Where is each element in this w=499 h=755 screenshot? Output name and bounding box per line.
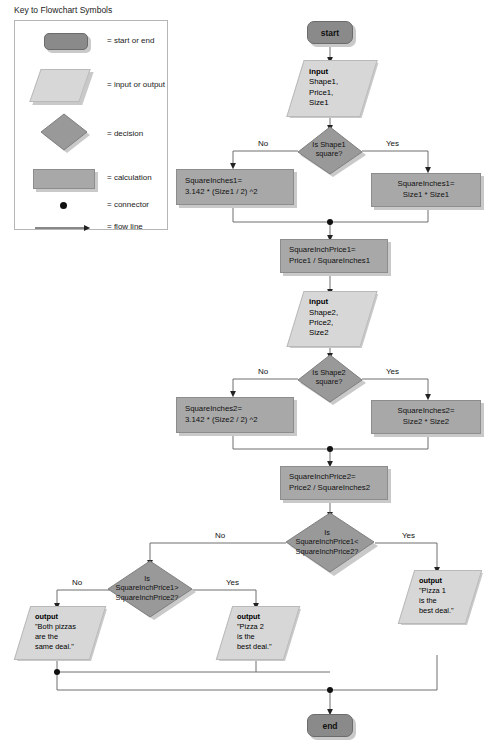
output-pizza2-line-2: is the <box>237 632 290 642</box>
input-2-header: input <box>309 297 367 307</box>
output-pizza2-header: output <box>237 612 290 622</box>
price2-line-1: SquareInchPrice2= <box>289 472 356 483</box>
price1-line-2: Price1 / SquareInches1 <box>289 256 370 267</box>
node-output-pizza2[interactable]: output "Pizza 2 is the best deal." <box>224 606 290 658</box>
node-calc-squareinchprice1[interactable]: SquareInchPrice1= Price1 / SquareInches1 <box>280 239 388 273</box>
dot-symbol <box>25 195 103 217</box>
legend-row-connector: = connector <box>15 195 167 217</box>
input-2-text: input Shape2, Price2, Size2 <box>295 291 367 345</box>
node-end[interactable]: end <box>307 714 353 737</box>
calc2-yes-line-1: SquareInches2= <box>397 406 454 417</box>
calc1-yes-line-2: Size1 * Size1 <box>403 190 449 201</box>
output-pizza2-text: output "Pizza 2 is the best deal." <box>224 606 290 658</box>
output-pizza2-line-3: best deal." <box>237 642 290 652</box>
decision3-line-1: Is <box>324 528 330 537</box>
rectangle-symbol <box>25 161 103 195</box>
output-same-line-3: same deal." <box>35 642 96 652</box>
output-same-header: output <box>35 612 96 622</box>
node-decision-shape2-square[interactable]: Is Shape2 square? <box>294 354 368 406</box>
decision4-line-1: Is <box>144 574 150 583</box>
decision-price-lt-text: Is SquareInchPrice1< SquareInchPrice2? <box>278 509 376 575</box>
legend-row-io: = input or output <box>15 63 167 107</box>
node-decision-shape1-square[interactable]: Is Shape1 square? <box>294 126 368 178</box>
legend-box: = start or end = input or output = decis… <box>14 20 168 230</box>
input-1-line-1: Shape1, <box>309 77 367 87</box>
node-calc-squareinches2-square[interactable]: SquareInches2= Size2 * Size2 <box>371 400 481 434</box>
output-pizza1-line-2: is the <box>419 596 472 606</box>
legend-row-terminator: = start or end <box>15 27 167 61</box>
decision3-line-3: SquareInchPrice2? <box>296 547 359 556</box>
node-calc-squareinches2-circle[interactable]: SquareInches2= 3.142 * (Size2 / 2) ^2 <box>176 397 294 433</box>
output-pizza1-line-3: best deal." <box>419 606 472 616</box>
calc2-yes-line-2: Size2 * Size2 <box>403 417 449 428</box>
node-calc-squareinches1-square[interactable]: SquareInches1= Size1 * Size1 <box>371 173 481 207</box>
price1-line-1: SquareInchPrice1= <box>289 245 356 256</box>
flowchart-canvas: Key to Flowchart Symbols = start or end … <box>0 0 499 755</box>
edge-label-d2-no: No <box>258 367 268 376</box>
node-input-1[interactable]: input Shape1, Price1, Size1 <box>295 60 367 115</box>
legend-label-decision: = decision <box>107 129 143 138</box>
node-calc-squareinches1-circle[interactable]: SquareInches1= 3.142 * (Size1 / 2) ^2 <box>176 169 294 205</box>
node-calc-squareinchprice2[interactable]: SquareInchPrice2= Price2 / SquareInches2 <box>280 466 388 500</box>
legend-label-calculation: = calculation <box>107 173 152 182</box>
output-pizza1-text: output "Pizza 1 is the best deal." <box>406 570 472 622</box>
legend-label-terminator: = start or end <box>107 36 154 45</box>
calc1-yes-line-1: SquareInches1= <box>397 179 454 190</box>
edge-label-d2-yes: Yes <box>386 367 399 376</box>
node-start[interactable]: start <box>307 21 353 44</box>
input-2-line-2: Price2, <box>309 318 367 328</box>
calc1-no-line-2: 3.142 * (Size1 / 2) ^2 <box>185 187 258 198</box>
node-output-pizza1[interactable]: output "Pizza 1 is the best deal." <box>406 570 472 622</box>
decision-shape1-line-2: square? <box>316 149 343 158</box>
calc1-no-line-1: SquareInches1= <box>185 176 242 187</box>
legend-row-flowline: = flow line <box>15 217 167 239</box>
legend-title: Key to Flowchart Symbols <box>14 5 112 15</box>
diamond-symbol <box>25 111 103 157</box>
decision-price-gt-text: Is SquareInchPrice1> SquareInchPrice2? <box>100 557 194 619</box>
node-input-2[interactable]: input Shape2, Price2, Size2 <box>295 291 367 345</box>
input-2-line-1: Shape2, <box>309 308 367 318</box>
edge-label-d1-yes: Yes <box>386 139 399 148</box>
decision-shape1-line-1: Is Shape1 <box>312 140 345 149</box>
calc2-no-line-1: SquareInches2= <box>185 404 242 415</box>
decision-shape1-text: Is Shape1 square? <box>292 123 366 175</box>
legend-row-decision: = decision <box>15 111 167 157</box>
output-same-line-2: are the <box>35 632 96 642</box>
output-pizza2-line-1: "Pizza 2 <box>237 622 290 632</box>
terminator-symbol <box>25 27 103 61</box>
parallelogram-symbol <box>25 63 103 107</box>
input-1-text: input Shape1, Price1, Size1 <box>295 60 367 115</box>
price2-line-2: Price2 / SquareInches2 <box>289 483 370 494</box>
edge-label-d3-no: No <box>215 531 225 540</box>
decision4-line-2: SquareInchPrice1> <box>115 583 178 592</box>
decision-shape2-line-1: Is Shape2 <box>312 368 345 377</box>
decision-shape2-line-2: square? <box>316 377 343 386</box>
edge-label-d4-no: No <box>72 578 82 587</box>
input-1-line-3: Size1 <box>309 98 367 108</box>
decision4-line-3: SquareInchPrice2? <box>116 593 179 602</box>
input-1-header: input <box>309 67 367 77</box>
node-decision-price1-gt-price2[interactable]: Is SquareInchPrice1> SquareInchPrice2? <box>104 560 198 622</box>
input-2-line-3: Size2 <box>309 328 367 338</box>
output-same-text: output "Both pizzas are the same deal." <box>22 606 96 658</box>
node-output-same-deal[interactable]: output "Both pizzas are the same deal." <box>22 606 96 658</box>
output-pizza1-line-1: "Pizza 1 <box>419 586 472 596</box>
legend-label-io: = input or output <box>107 80 165 89</box>
legend-label-connector: = connector <box>107 200 149 209</box>
edge-label-d3-yes: Yes <box>402 531 415 540</box>
decision3-line-2: SquareInchPrice1< <box>295 537 358 546</box>
output-pizza1-header: output <box>419 576 472 586</box>
edge-label-d4-yes: Yes <box>226 578 239 587</box>
legend-row-calculation: = calculation <box>15 161 167 195</box>
calc2-no-line-2: 3.142 * (Size2 / 2) ^2 <box>185 415 258 426</box>
edge-label-d1-no: No <box>258 139 268 148</box>
input-1-line-2: Price1, <box>309 88 367 98</box>
legend-label-flowline: = flow line <box>107 222 143 231</box>
node-decision-price1-lt-price2[interactable]: Is SquareInchPrice1< SquareInchPrice2? <box>282 512 380 578</box>
decision-shape2-text: Is Shape2 square? <box>292 351 366 403</box>
arrow-symbol <box>25 217 103 239</box>
output-same-line-1: "Both pizzas <box>35 622 96 632</box>
